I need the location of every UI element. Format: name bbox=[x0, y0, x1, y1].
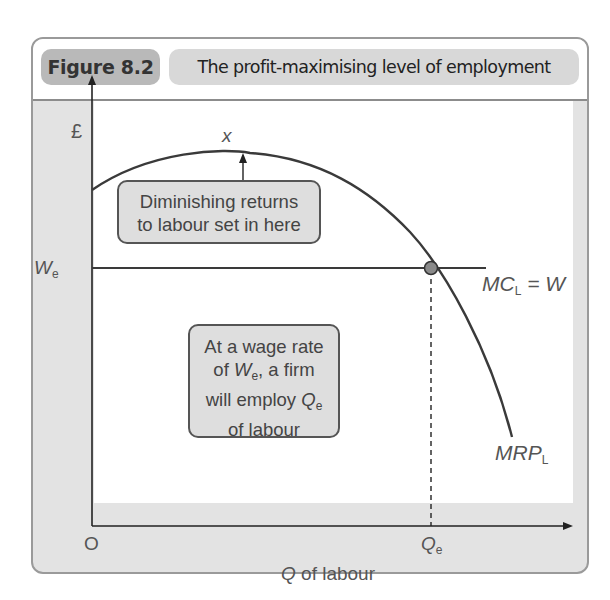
mrp-curve-label: MRPL bbox=[495, 441, 548, 467]
origin-label: O bbox=[84, 533, 99, 555]
x-axis-label: Q of labour bbox=[281, 563, 375, 585]
mc-main: MC bbox=[482, 272, 515, 295]
wage-line-1: At a wage rate bbox=[190, 335, 338, 358]
diminishing-returns-callout: Diminishing returns to labour set in her… bbox=[117, 180, 321, 244]
diminishing-line-1: Diminishing returns bbox=[119, 190, 319, 213]
wage-line-3-pre: will employ bbox=[206, 389, 302, 410]
wage-line-2-post: , a firm bbox=[258, 359, 315, 380]
chart-svg bbox=[0, 0, 610, 600]
we-main: W bbox=[34, 257, 52, 278]
wage-line-3-var: Q bbox=[301, 389, 315, 410]
mrp-main: MRP bbox=[495, 441, 542, 464]
qe-sub: e bbox=[436, 543, 443, 557]
qe-main: Q bbox=[421, 533, 436, 554]
we-sub: e bbox=[52, 267, 59, 281]
mc-curve-label: MCL = W bbox=[482, 272, 565, 298]
wage-rate-callout: At a wage rate of We, a firm will employ… bbox=[188, 324, 340, 438]
wage-line-2: of We, a firm bbox=[190, 358, 338, 388]
wage-line-4: of labour bbox=[190, 418, 338, 441]
we-tick-label: We bbox=[34, 257, 59, 281]
mc-rest: = W bbox=[521, 272, 565, 295]
peak-x-label: x bbox=[222, 125, 232, 147]
wage-line-3: will employ Qe bbox=[190, 388, 338, 418]
wage-line-2-pre: of bbox=[213, 359, 234, 380]
wage-line-2-var: W bbox=[234, 359, 251, 380]
equilibrium-point bbox=[425, 262, 438, 275]
x-axis-label-var: Q bbox=[281, 563, 296, 584]
diminishing-line-2: to labour set in here bbox=[119, 213, 319, 236]
y-axis-label: £ bbox=[71, 120, 82, 143]
wage-line-3-sub: e bbox=[316, 399, 323, 413]
mrp-sub: L bbox=[542, 453, 549, 467]
x-axis-label-rest: of labour bbox=[296, 563, 375, 584]
qe-tick-label: Qe bbox=[421, 533, 442, 557]
